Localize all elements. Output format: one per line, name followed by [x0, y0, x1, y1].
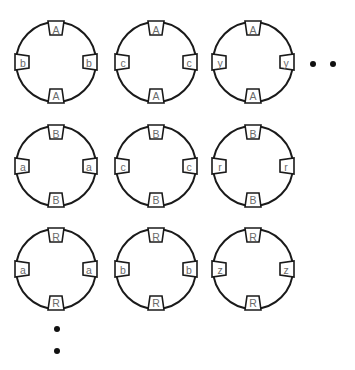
tab-top: A: [245, 21, 261, 36]
ring-unit: BcBc: [115, 125, 197, 207]
ring-unit: AbAb: [15, 21, 97, 103]
tab-label-bottom: R: [52, 297, 60, 309]
ellipsis-dot-vertical: [54, 326, 60, 332]
tab-bottom: A: [245, 89, 261, 103]
tab-left: c: [115, 54, 129, 70]
tab-right: r: [280, 158, 294, 174]
tab-right: b: [183, 261, 197, 277]
ring-unit: RzRz: [212, 228, 294, 310]
ring-unit: BaBa: [15, 125, 97, 207]
tab-label-left: y: [217, 57, 223, 69]
tab-label-right: c: [186, 57, 191, 69]
tab-right: y: [280, 54, 294, 70]
tab-label-top: R: [152, 231, 160, 243]
tab-label-bottom: B: [52, 194, 59, 206]
ring-unit: AcAc: [115, 21, 197, 103]
ellipsis-dot-horizontal: [330, 61, 336, 67]
tab-label-top: B: [152, 128, 159, 140]
tab-top: B: [148, 125, 164, 140]
tab-label-bottom: R: [249, 297, 257, 309]
tab-label-right: c: [186, 161, 191, 173]
tab-label-bottom: A: [52, 90, 59, 102]
ring-unit: RaRa: [15, 228, 97, 310]
tab-top: R: [148, 228, 164, 243]
tab-label-top: A: [52, 24, 59, 36]
tab-label-left: a: [20, 161, 26, 173]
tab-label-bottom: A: [249, 90, 256, 102]
tab-right: z: [280, 261, 294, 277]
tab-left: z: [212, 261, 226, 277]
tab-right: a: [83, 261, 97, 277]
tab-left: r: [212, 158, 226, 174]
tab-label-top: B: [52, 128, 59, 140]
tab-label-bottom: B: [152, 194, 159, 206]
tab-left: b: [15, 54, 29, 70]
tab-label-right: b: [86, 57, 92, 69]
tab-bottom: B: [245, 193, 261, 207]
tab-right: b: [83, 54, 97, 70]
tab-top: A: [48, 21, 64, 36]
tab-label-left: c: [120, 57, 125, 69]
tab-bottom: R: [148, 296, 164, 310]
tab-bottom: B: [148, 193, 164, 207]
tab-label-left: z: [217, 264, 222, 276]
ring-unit: RbRb: [115, 228, 197, 310]
tab-label-left: c: [120, 161, 125, 173]
tab-label-top: R: [52, 231, 60, 243]
tab-top: B: [48, 125, 64, 140]
tab-label-left: b: [120, 264, 126, 276]
tab-label-bottom: A: [152, 90, 159, 102]
tab-label-right: z: [283, 264, 288, 276]
tab-label-top: A: [152, 24, 159, 36]
tab-label-left: a: [20, 264, 26, 276]
tab-bottom: B: [48, 193, 64, 207]
tab-bottom: R: [48, 296, 64, 310]
tab-top: B: [245, 125, 261, 140]
ring-unit: BrBr: [212, 125, 294, 207]
tab-right: c: [183, 54, 197, 70]
tab-label-top: B: [249, 128, 256, 140]
tab-label-top: A: [249, 24, 256, 36]
tab-label-right: b: [186, 264, 192, 276]
tab-label-right: y: [283, 57, 289, 69]
ellipsis-dot-vertical: [54, 348, 60, 354]
tab-bottom: R: [245, 296, 261, 310]
tab-left: y: [212, 54, 226, 70]
tab-right: c: [183, 158, 197, 174]
tab-bottom: A: [148, 89, 164, 103]
tab-top: R: [48, 228, 64, 243]
tab-label-left: r: [218, 161, 222, 173]
tab-label-bottom: B: [249, 194, 256, 206]
tab-label-top: R: [249, 231, 257, 243]
tab-label-bottom: R: [152, 297, 160, 309]
tab-top: A: [148, 21, 164, 36]
tab-label-right: a: [86, 161, 92, 173]
ring-unit: AyAy: [212, 21, 294, 103]
tab-left: a: [15, 261, 29, 277]
tab-left: b: [115, 261, 129, 277]
ellipsis-dot-horizontal: [310, 61, 316, 67]
tab-right: a: [83, 158, 97, 174]
tab-left: c: [115, 158, 129, 174]
tab-label-left: b: [20, 57, 26, 69]
tab-label-right: r: [284, 161, 288, 173]
tab-top: R: [245, 228, 261, 243]
ring-grid-diagram: AbAbAcAcAyAyBaBaBcBcBrBrRaRaRbRbRzRz: [0, 0, 355, 370]
tab-label-right: a: [86, 264, 92, 276]
tab-left: a: [15, 158, 29, 174]
tab-bottom: A: [48, 89, 64, 103]
